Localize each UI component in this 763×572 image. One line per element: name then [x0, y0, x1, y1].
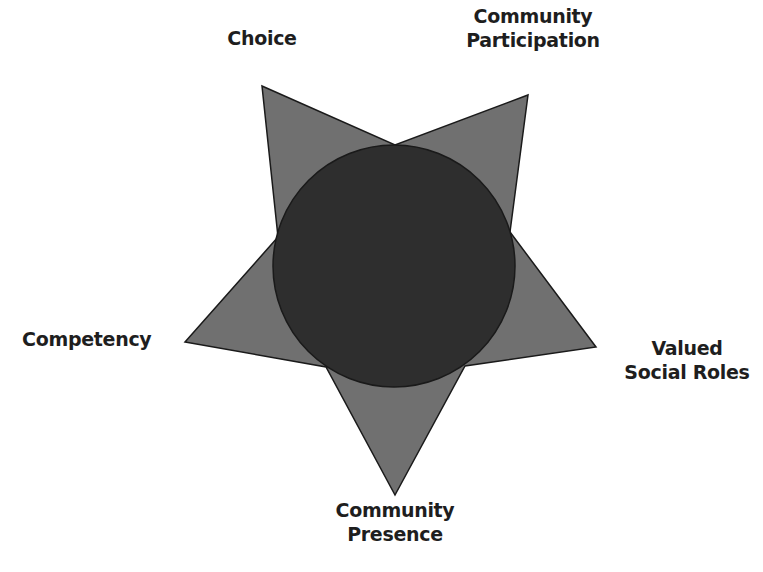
- label-line: Competency: [22, 327, 178, 351]
- label-line: Social Roles: [612, 360, 762, 384]
- label-line: Participation: [458, 28, 608, 52]
- label-community-presence: Community Presence: [310, 498, 480, 546]
- label-line: Community: [310, 498, 480, 522]
- label-line: Valued: [612, 336, 762, 360]
- label-choice: Choice: [212, 26, 312, 50]
- label-line: Presence: [310, 522, 480, 546]
- label-line: Community: [458, 4, 608, 28]
- label-line: Choice: [212, 26, 312, 50]
- star-diagram: [0, 0, 763, 572]
- label-community-participation: Community Participation: [458, 4, 608, 52]
- central-circle: [273, 145, 515, 387]
- label-competency: Competency: [22, 327, 178, 351]
- label-valued-social-roles: Valued Social Roles: [612, 336, 762, 384]
